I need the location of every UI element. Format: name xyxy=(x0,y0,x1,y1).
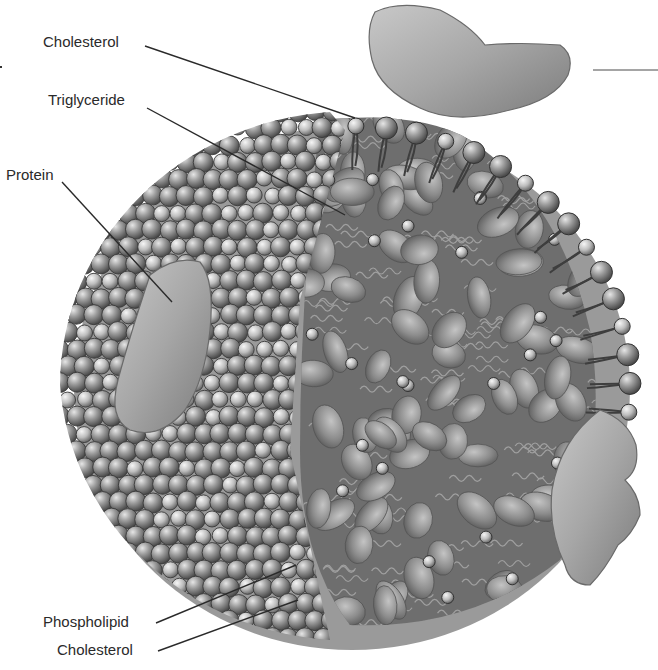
label-phospholipid: Phospholipid xyxy=(43,613,129,631)
leader-cholesterol-top xyxy=(145,46,355,118)
label-protein: Protein xyxy=(6,166,54,184)
label-cholesterol-bottom: Cholesterol xyxy=(57,641,133,659)
label-cholesterol-top: Cholesterol xyxy=(43,33,119,51)
tick-mark xyxy=(0,66,2,68)
lipoprotein-diagram: Cholesterol Triglyceride Protein Phospho… xyxy=(0,0,658,670)
protein-top xyxy=(369,5,570,117)
label-triglyceride: Triglyceride xyxy=(48,91,125,109)
